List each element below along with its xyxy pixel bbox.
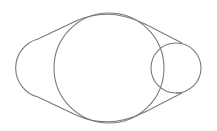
- small-circle: [151, 43, 201, 93]
- large-circle: [54, 13, 164, 123]
- tangent-circles-diagram: [0, 0, 217, 131]
- belt-outline: [16, 14, 182, 122]
